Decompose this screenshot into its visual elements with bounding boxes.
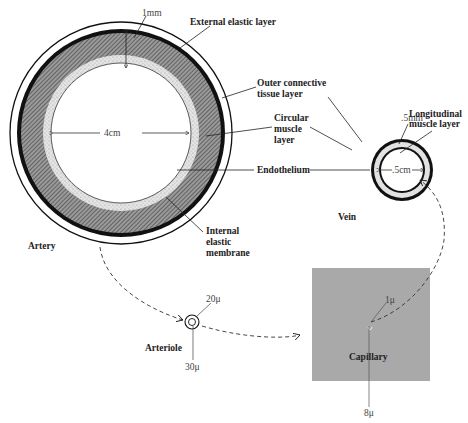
artery-title: Artery [28,241,56,251]
capillary-tissue-block [312,268,430,381]
label-longitudinal-1: Longitudinal [409,109,462,119]
vein-title: Vein [338,212,357,222]
label-outer-connective-1: Outer connective [257,78,326,88]
label-circular-3: layer [274,135,295,145]
artery-wall-thickness: 1mm [142,8,162,18]
label-internal-3: membrane [206,248,250,258]
arteriole-cross-section [185,315,199,329]
flow-artery-to-arteriole [100,247,183,320]
label-outer-connective-2: tissue layer [257,89,303,99]
label-endothelium: Endothelium [257,165,310,175]
label-internal-1: Internal [206,226,240,236]
label-longitudinal-2: muscle layer [409,119,461,129]
capillary-wall-thickness: 1μ [385,295,395,305]
capillary-diameter: 8μ [364,408,374,418]
label-circular-1: Circular [274,113,309,123]
artery-cross-section [10,16,232,244]
artery-lumen-diameter: 4cm [104,128,121,138]
capillary-title: Capillary [349,352,388,362]
label-internal-2: elastic [206,237,231,247]
arteriole-inner-diameter: 20μ [206,294,221,304]
arteriole-outer-diameter: 30μ [185,362,200,372]
vein-lumen-diameter: .5cm [392,165,411,175]
flow-arteriole-to-capillary [202,326,300,337]
blood-vessel-diagram: 1mm 4cm External elastic layer Outer con… [0,0,468,423]
arteriole-title: Arteriole [145,343,182,353]
label-external-elastic-layer: External elastic layer [190,17,277,27]
label-circular-2: muscle [274,124,302,134]
